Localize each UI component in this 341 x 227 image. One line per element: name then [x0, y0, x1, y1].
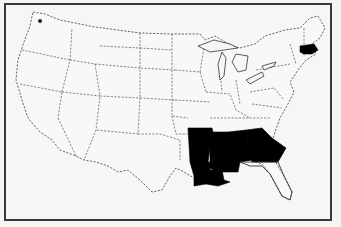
- us-outline: [16, 12, 325, 200]
- state-georgia: [246, 128, 286, 162]
- state-mississippi: [210, 132, 228, 172]
- puget-sound-marker: [38, 19, 42, 23]
- us-map: [0, 0, 341, 227]
